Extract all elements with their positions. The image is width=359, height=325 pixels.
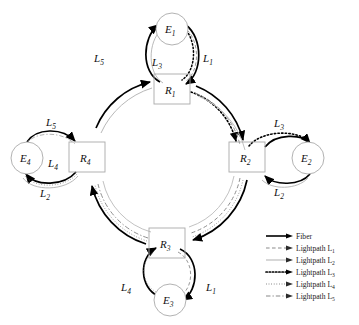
legend-item-lightpath-L5: Lightpath L5 (266, 292, 335, 302)
router-box-R1[interactable] (154, 74, 190, 104)
fiber-arc-R1-R2 (196, 86, 243, 140)
edge-node-E2[interactable]: E2 (292, 142, 324, 174)
legend-arrow-fiber (286, 233, 293, 238)
lightpath-L3-arc-R1-R2 (191, 92, 236, 141)
legend-arrow-L4 (286, 281, 293, 286)
lightpath-L5-E4-R4 (27, 131, 75, 142)
router-box-R2[interactable] (229, 142, 265, 172)
legend-item-lightpath-L3: Lightpath L3 (266, 268, 335, 278)
legend-arrow-L2 (286, 257, 293, 262)
fiber-arc-R3-R4 (92, 186, 146, 244)
router-node-R3[interactable]: R3 (149, 228, 185, 258)
router-node-R2[interactable]: R2 (229, 142, 265, 172)
legend-arrow-L3 (286, 269, 293, 274)
label-L5-top: L5 (93, 52, 104, 67)
legend-label-L2: Lightpath L2 (296, 256, 335, 266)
fiber-arc-R4-R1 (96, 82, 150, 128)
lightpath-L1-arc-R1-R2 (195, 93, 240, 145)
legend-arrow-L1 (286, 245, 293, 250)
lightpath-L4-R4-E4 (26, 172, 76, 183)
network-diagram: R1 R2 R3 R4 E1 E2 E3 E4 L5 L3 L1 L5 L4 L… (0, 0, 359, 325)
lightpath-L4-arc-R3-R4 (95, 185, 147, 241)
fiber-arc-R2-R3 (193, 180, 247, 240)
lightpath-L5-arc-R3-R4 (98, 184, 148, 238)
legend-label-fiber: Fiber (296, 232, 313, 241)
router-node-R1[interactable]: R1 (154, 74, 190, 104)
legend-label-L4: Lightpath L4 (296, 280, 335, 290)
label-L4-left: L4 (47, 157, 58, 172)
legend-item-lightpath-L4: Lightpath L4 (266, 280, 335, 290)
legend: Fiber Lightpath L1 Lightpath L2 Lightpat… (266, 232, 335, 302)
diagram-canvas: R1 R2 R3 R4 E1 E2 E3 E4 L5 L3 L1 L5 L4 L… (0, 0, 359, 325)
legend-item-lightpath-L1: Lightpath L1 (266, 244, 335, 254)
label-L1-bottom: L1 (205, 281, 216, 296)
legend-item-lightpath-L2: Lightpath L2 (266, 256, 335, 266)
edge-node-E3[interactable]: E3 (154, 284, 186, 316)
legend-item-fiber: Fiber (266, 232, 313, 241)
legend-label-L5: Lightpath L5 (296, 292, 335, 302)
router-node-R4[interactable]: R4 (69, 142, 105, 172)
label-L4-bottom: L4 (120, 281, 131, 296)
legend-label-L3: Lightpath L3 (296, 268, 335, 278)
label-L3-right: L3 (273, 117, 284, 132)
edge-node-E1[interactable]: E1 (156, 13, 188, 45)
lightpath-L2-arc-R4-R1 (101, 88, 152, 133)
edge-node-E4[interactable]: E4 (11, 142, 43, 174)
router-box-R4[interactable] (69, 142, 105, 172)
label-L1-top: L1 (202, 52, 213, 67)
ring-arcs (92, 82, 247, 244)
label-L2-left: L2 (39, 187, 50, 202)
lightpath-L2-arc-R3-R4 (103, 181, 151, 232)
router-box-R3[interactable] (149, 228, 185, 258)
label-L2-right: L2 (273, 186, 284, 201)
label-L5-left: L5 (45, 116, 56, 131)
legend-arrow-L5 (286, 293, 293, 298)
legend-label-L1: Lightpath L1 (296, 244, 335, 254)
